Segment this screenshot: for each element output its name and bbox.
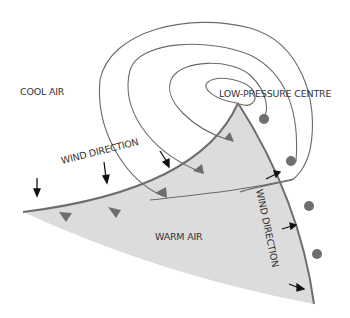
arrow-down-icon bbox=[34, 178, 40, 196]
low-pressure-centre-label: LOW-PRESSURE CENTRE bbox=[219, 88, 331, 99]
warm-sector bbox=[23, 103, 314, 304]
wind-direction-label-cold: WIND DIRECTION bbox=[60, 136, 140, 166]
arrow-down-icon bbox=[103, 162, 109, 183]
cool-air-label: COOL AIR bbox=[20, 86, 65, 97]
warm-air-label: WARM AIR bbox=[155, 231, 203, 242]
warm-front-bump-3 bbox=[304, 201, 314, 211]
warm-front-bump-4 bbox=[312, 249, 322, 259]
warm-front-bump-1 bbox=[259, 114, 269, 124]
depression-diagram: COOL AIR LOW-PRESSURE CENTRE WIND DIRECT… bbox=[0, 0, 350, 318]
warm-front-bump-2 bbox=[286, 156, 296, 166]
